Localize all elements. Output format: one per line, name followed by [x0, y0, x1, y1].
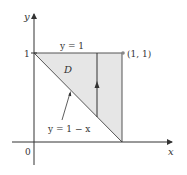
top-edge-label: y = 1: [59, 41, 84, 51]
pointer-arrow-icon: [68, 91, 71, 96]
y-axis-label: y: [23, 11, 30, 22]
region-diagram: y x 0 1 y = 1 D (1, 1) y = 1 − x: [0, 0, 187, 175]
y-tick-label: 1: [24, 49, 30, 59]
x-axis-label: x: [168, 146, 174, 157]
point-label: (1, 1): [127, 49, 151, 59]
hypotenuse-label: y = 1 − x: [47, 124, 90, 134]
point-1-1: [121, 51, 125, 55]
label-pointer-line: [62, 93, 70, 120]
origin-label: 0: [25, 147, 31, 157]
region-label: D: [63, 64, 72, 75]
